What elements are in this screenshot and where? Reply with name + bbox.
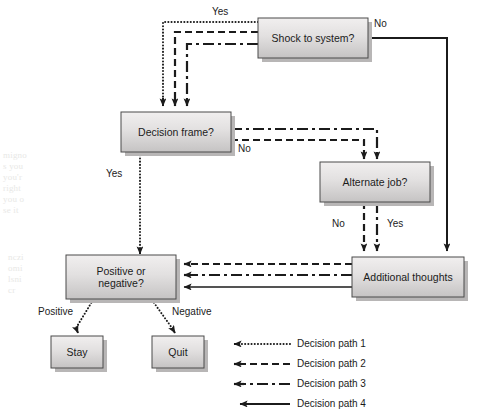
legend-label-path3: Decision path 3 [297,378,366,389]
decision-path-3-edge [184,44,377,275]
node-decision-frame[interactable] [121,112,235,156]
node-positive-or-negative[interactable] [66,255,180,303]
edge-label-frame-no: No [238,143,251,154]
legend-label-path4: Decision path 4 [297,398,366,409]
edge-label-shock-no: No [374,18,387,29]
legend-label-path2: Decision path 2 [297,358,366,369]
legend-swatches [234,344,290,404]
edge-label-posneg-positive: Positive [38,306,73,317]
edge-label-frame-yes: Yes [106,168,122,179]
node-stay[interactable] [51,336,107,372]
edge-label-shock-yes: Yes [212,6,228,17]
flowchart-canvas [0,0,477,417]
node-shock-to-system[interactable] [258,18,372,62]
flowchart-nodes [51,18,468,372]
edge-label-alternate-no: No [332,218,345,229]
node-additional-thoughts[interactable] [352,257,468,301]
edge-label-posneg-negative: Negative [172,306,211,317]
legend-label-path1: Decision path 1 [297,338,366,349]
flowchart-page: migno s you you'r right you o se it nczi… [0,0,477,417]
edge-label-alternate-yes: Yes [387,218,403,229]
node-alternate-job[interactable] [320,162,434,206]
node-quit[interactable] [152,336,208,372]
